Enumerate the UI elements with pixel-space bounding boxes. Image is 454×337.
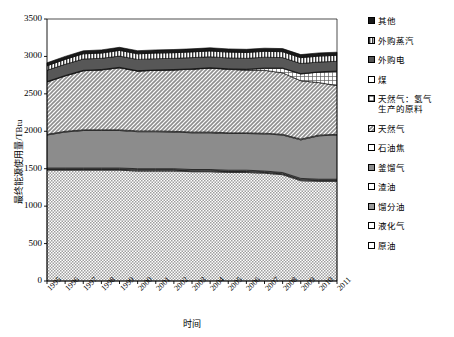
legend-swatch-icon — [368, 56, 375, 63]
area-series — [47, 68, 337, 139]
legend-label: 其他 — [378, 16, 396, 26]
legend-item[interactable]: 煤 — [368, 75, 454, 85]
legend-item[interactable]: 外购电 — [368, 55, 454, 65]
legend-label: 釜馏气 — [378, 163, 405, 173]
legend-swatch-icon — [368, 222, 375, 229]
legend-label: 外购电 — [378, 55, 405, 65]
legend-item[interactable]: 原油 — [368, 241, 454, 251]
legend-label: 渣油 — [378, 182, 396, 192]
legend-item[interactable]: 外购蒸汽 — [368, 36, 454, 46]
legend-label: 液化气 — [378, 221, 405, 231]
legend-item[interactable]: 馏分油 — [368, 202, 454, 212]
legend-swatch-icon — [368, 144, 375, 151]
legend-label: 外购蒸汽 — [378, 36, 414, 46]
legend-swatch-icon — [368, 183, 375, 190]
legend-item[interactable]: 渣油 — [368, 182, 454, 192]
legend-item[interactable]: 天然气 — [368, 124, 454, 134]
legend-swatch-icon — [368, 242, 375, 249]
legend-label: 天然气：氢气 生产的原料 — [378, 94, 432, 114]
area-series — [47, 170, 337, 281]
legend-swatch-icon — [368, 17, 375, 24]
legend-swatch-icon — [368, 125, 375, 132]
legend-label: 原油 — [378, 241, 396, 251]
legend-item[interactable]: 石油焦 — [368, 143, 454, 153]
legend-label: 煤 — [378, 75, 387, 85]
legend-swatch-icon — [368, 95, 375, 102]
stacked-area-chart: 最终能源使用量/TBtu 050010001500200025003000350… — [0, 0, 454, 337]
legend-swatch-icon — [368, 164, 375, 171]
legend-swatch-icon — [368, 37, 375, 44]
legend-swatch-icon — [368, 76, 375, 83]
legend-item[interactable]: 釜馏气 — [368, 163, 454, 173]
legend-item[interactable]: 液化气 — [368, 221, 454, 231]
chart-legend: 其他外购蒸汽外购电煤天然气：氢气 生产的原料天然气石油焦釜馏气渣油馏分油液化气原… — [368, 16, 454, 260]
legend-label: 石油焦 — [378, 143, 405, 153]
x-axis-title: 时间 — [47, 317, 337, 330]
legend-label: 天然气 — [378, 124, 405, 134]
legend-item[interactable]: 天然气：氢气 生产的原料 — [368, 94, 454, 114]
legend-label: 馏分油 — [378, 202, 405, 212]
legend-item[interactable]: 其他 — [368, 16, 454, 26]
legend-swatch-icon — [368, 203, 375, 210]
